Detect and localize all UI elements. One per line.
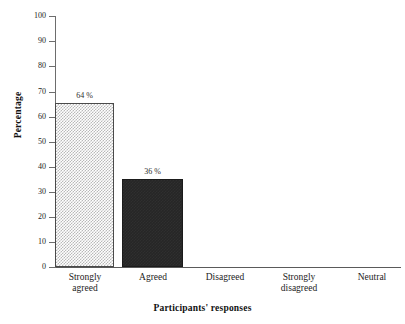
y-tick-label-50: 50 [16, 138, 46, 146]
y-tick-label-80: 80 [16, 62, 46, 70]
x-tick-label-line1: Strongly [47, 272, 123, 283]
x-tick-label-line1: Neutral [340, 272, 404, 283]
plot-area [55, 16, 400, 267]
x-tick-label-neutral: Neutral [340, 272, 404, 283]
x-tick-label-line1: Disagreed [186, 272, 264, 283]
y-tick-label-10: 10 [16, 238, 46, 246]
bar-strongly-agreed[interactable] [55, 103, 114, 267]
bar-value-agreed: 36 % [122, 167, 183, 176]
y-tick-label-90: 90 [16, 37, 46, 45]
x-tick-label-line2: agreed [47, 283, 123, 294]
y-tick-0 [49, 267, 56, 268]
y-tick-label-60: 60 [16, 113, 46, 121]
x-tick-label-line1: Strongly [256, 272, 342, 283]
y-tick-label-30: 30 [16, 188, 46, 196]
y-tick-label-40: 40 [16, 163, 46, 171]
x-tick-label-disagreed: Disagreed [186, 272, 264, 283]
y-tick-label-20: 20 [16, 213, 46, 221]
bar-agreed[interactable] [122, 179, 183, 267]
bar-value-strongly-agreed: 64 % [55, 91, 114, 100]
y-tick-label-100: 100 [16, 12, 46, 20]
y-tick-label-70: 70 [16, 88, 46, 96]
x-axis-line [55, 267, 401, 268]
x-tick-label-line1: Agreed [117, 272, 189, 283]
x-tick-label-agreed: Agreed [117, 272, 189, 283]
x-axis-title: Participants' responses [0, 303, 405, 313]
x-tick-label-strongly-disagreed: Strongly disagreed [256, 272, 342, 293]
y-tick-label-0: 0 [16, 263, 46, 271]
x-tick-label-strongly-agreed: Strongly agreed [47, 272, 123, 293]
bar-chart: Percentage 100 90 80 70 60 50 40 30 20 1… [0, 0, 405, 324]
x-tick-label-line2: disagreed [256, 283, 342, 294]
